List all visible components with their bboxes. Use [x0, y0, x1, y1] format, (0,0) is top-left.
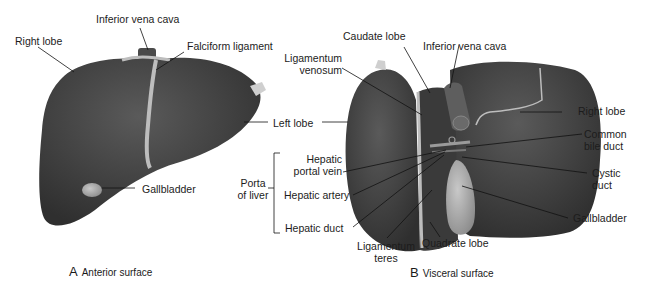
caption-a: AAnterior surface	[69, 264, 152, 279]
liver-illustration	[0, 0, 646, 290]
caption-a-text: Anterior surface	[82, 267, 153, 278]
visceral-liver	[346, 60, 601, 251]
label-hepatic-portal-vein-line2: portal vein	[280, 165, 342, 177]
label-hepatic-duct: Hepatic duct	[285, 222, 343, 234]
anterior-liver	[39, 48, 266, 226]
label-cystic-duct-line2: duct	[592, 179, 621, 191]
label-porta-of-liver-line2: of liver	[236, 189, 270, 201]
label-porta-of-liver: Porta of liver	[236, 177, 270, 201]
caption-b: BVisceral surface	[410, 265, 494, 280]
label-gallbladder-b: Gallbladder	[573, 212, 627, 224]
label-ligamentum-venosum: Ligamentum venosum	[280, 52, 342, 76]
label-ligamentum-teres-line1: Ligamentum	[353, 240, 419, 252]
label-common-bile-duct: Common bile duct	[584, 128, 627, 152]
label-ligamentum-teres: Ligamentum teres	[353, 240, 419, 264]
label-caudate-lobe: Caudate lobe	[343, 30, 405, 42]
label-hepatic-artery: Hepatic artery	[284, 189, 349, 201]
label-left-lobe-a: Left lobe	[273, 117, 313, 129]
label-hepatic-portal-vein: Hepatic portal vein	[280, 153, 342, 177]
label-common-bile-duct-line1: Common	[584, 128, 627, 140]
label-right-lobe-a: Right lobe	[15, 35, 62, 47]
label-cystic-duct-line1: Cystic	[592, 167, 621, 179]
label-inferior-vena-cava-b: Inferior vena cava	[423, 40, 506, 52]
label-ligamentum-venosum-line2: venosum	[280, 64, 342, 76]
label-common-bile-duct-line2: bile duct	[584, 140, 627, 152]
label-right-lobe-b: Right lobe	[578, 105, 625, 117]
caption-b-letter: B	[410, 265, 419, 280]
caption-b-text: Visceral surface	[423, 268, 494, 279]
label-inferior-vena-cava-a: Inferior vena cava	[96, 13, 179, 25]
label-quadrate-lobe: Quadrate lobe	[422, 237, 489, 249]
label-hepatic-portal-vein-line1: Hepatic	[280, 153, 342, 165]
label-gallbladder-a: Gallbladder	[142, 183, 196, 195]
label-ligamentum-venosum-line1: Ligamentum	[280, 52, 342, 64]
label-porta-of-liver-line1: Porta	[236, 177, 270, 189]
label-falciform-ligament: Falciform ligament	[187, 40, 273, 52]
label-cystic-duct: Cystic duct	[592, 167, 621, 191]
caption-a-letter: A	[69, 264, 78, 279]
label-ligamentum-teres-line2: teres	[353, 252, 419, 264]
